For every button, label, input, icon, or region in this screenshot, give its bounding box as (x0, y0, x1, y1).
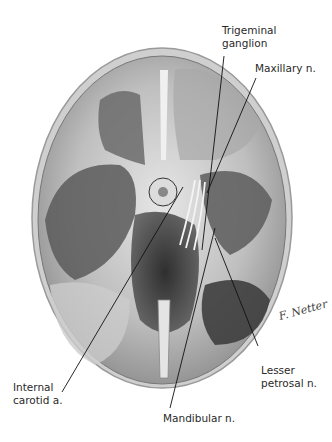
label-line: Maxillary n. (255, 62, 316, 75)
label-internal-carotid-a: Internal carotid a. (13, 381, 63, 407)
label-trigeminal-ganglion: Trigeminal ganglion (222, 24, 276, 50)
occipital-crest (158, 300, 170, 378)
label-line: Internal (13, 381, 63, 394)
sella-inner (158, 187, 168, 197)
label-line: Lesser (261, 364, 317, 377)
label-line: Mandibular n. (163, 412, 235, 425)
label-line: ganglion (222, 37, 276, 50)
label-mandibular-n: Mandibular n. (163, 412, 235, 425)
label-lesser-petrosal-n: Lesser petrosal n. (261, 364, 317, 390)
label-line: petrosal n. (261, 377, 317, 390)
label-line: Trigeminal (222, 24, 276, 37)
label-maxillary-n: Maxillary n. (255, 62, 316, 75)
label-line: carotid a. (13, 394, 63, 407)
netter-signature: F. Netter (276, 297, 329, 323)
